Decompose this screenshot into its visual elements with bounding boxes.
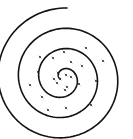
mark-point xyxy=(65,107,68,110)
mark-point xyxy=(64,89,67,92)
mark-point xyxy=(70,61,73,64)
mark-point xyxy=(66,86,69,89)
mark-point xyxy=(81,65,84,68)
mark-point xyxy=(52,57,55,60)
mark-point xyxy=(53,78,56,81)
mark-point xyxy=(90,104,93,107)
spiral-diagram xyxy=(0,0,133,139)
mark-point xyxy=(70,76,73,79)
scattered-marks xyxy=(29,47,105,112)
mark-point xyxy=(85,47,88,50)
mark-point xyxy=(29,84,32,87)
mark-point xyxy=(56,82,59,85)
mark-point xyxy=(41,96,44,99)
mark-point xyxy=(63,51,66,54)
mark-point xyxy=(47,109,50,112)
mark-point xyxy=(78,83,81,86)
mark-point xyxy=(39,56,42,59)
mark-point xyxy=(102,60,105,63)
mark-point xyxy=(65,74,68,77)
